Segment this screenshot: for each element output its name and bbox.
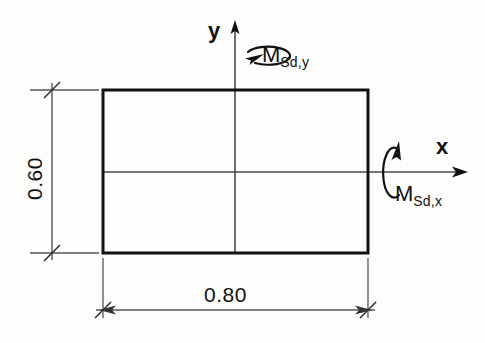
msd-x-subscript: Sd,x (413, 193, 442, 209)
diagram-canvas: y x MSd,y MSd,x 0.60 0.80 (0, 0, 485, 343)
width-dimension-label: 0.80 (204, 284, 247, 305)
height-dimension-label: 0.60 (24, 157, 45, 200)
y-axis-label: y (208, 20, 220, 42)
msd-x-symbol: M (395, 181, 413, 206)
msd-y-label: MSd,y (262, 44, 309, 66)
x-axis-label: x (436, 136, 448, 158)
msd-y-subscript: Sd,y (280, 54, 309, 70)
msd-y-symbol: M (262, 42, 280, 67)
msd-x-label: MSd,x (395, 183, 442, 205)
msd-x-arrowhead (392, 141, 402, 161)
